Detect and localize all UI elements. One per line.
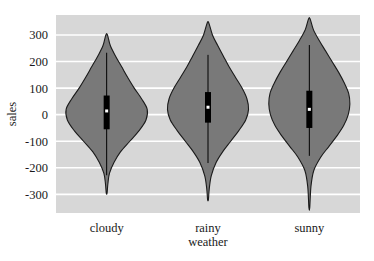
median-marker-rainy (207, 106, 210, 109)
x-tick-label-sunny: sunny (294, 221, 325, 235)
y-tick-label: -300 (25, 188, 48, 202)
y-tick-label: 100 (29, 82, 48, 96)
y-tick-label: 300 (29, 28, 48, 42)
x-tick-label-cloudy: cloudy (90, 221, 125, 235)
y-tick-label: -100 (25, 135, 48, 149)
chart-canvas: 3002001000-100-200-300 cloudyrainysunny … (0, 0, 374, 261)
y-tick-label: 200 (29, 55, 48, 69)
y-axis-title: sales (5, 102, 19, 126)
x-axis-title: weather (188, 235, 228, 249)
x-tick-label-rainy: rainy (195, 221, 221, 235)
y-tick-label: 0 (42, 108, 48, 122)
median-marker-sunny (308, 108, 311, 111)
y-tick-label: -200 (25, 161, 48, 175)
violin-series-group (66, 18, 350, 211)
median-marker-cloudy (105, 109, 108, 112)
violin-plot-figure: 3002001000-100-200-300 cloudyrainysunny … (0, 0, 374, 261)
